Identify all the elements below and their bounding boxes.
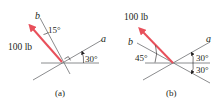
angle-label-30-a: 30° (85, 54, 98, 64)
force-label-a: 100 lb (8, 42, 32, 52)
caption-b: (b) (166, 88, 177, 98)
axis-a-label-a: a (101, 33, 106, 44)
force-diagram: b 15° 100 lb a 30° (a) 100 lb b 45° a 30… (0, 0, 220, 107)
caption-a: (a) (55, 88, 65, 98)
angle-arc-45 (155, 46, 157, 63)
angle-label-30-upper: 30° (196, 53, 209, 63)
axis-b-label-b: b (128, 36, 133, 47)
angle-arc-30-upper (192, 53, 194, 64)
angle-arc-30-a (82, 52, 84, 64)
panel-a: b 15° 100 lb a 30° (a) (8, 10, 106, 98)
axis-a-label-b: a (206, 33, 211, 44)
angle-arc-30-lower (192, 63, 194, 74)
force-label-b: 100 lb (124, 12, 148, 22)
axis-b-label-a: b (35, 10, 40, 21)
panel-b: 100 lb b 45° a 30° 30° (b) (124, 12, 211, 98)
angle-label-15: 15° (48, 25, 61, 35)
angle-label-45: 45° (135, 53, 148, 63)
angle-label-30-lower: 30° (196, 65, 209, 75)
